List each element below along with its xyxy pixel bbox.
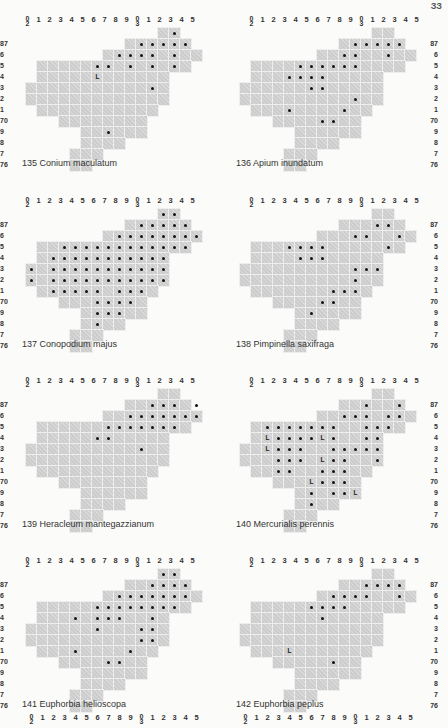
occurrence-dot <box>169 400 180 411</box>
column-label: 02 <box>22 197 33 207</box>
occurrence-dot <box>158 580 169 591</box>
occurrence-dot <box>125 50 136 61</box>
grid-cell <box>251 624 262 635</box>
column-label: 3 <box>59 714 70 721</box>
grid-cell <box>317 499 328 510</box>
dot-icon <box>107 257 110 260</box>
dot-icon <box>140 268 143 271</box>
dot-icon <box>195 415 198 418</box>
grid-cell <box>295 83 306 94</box>
occurrence-dot <box>383 242 394 253</box>
grid-cell <box>339 624 350 635</box>
occurrence-dot <box>372 39 383 50</box>
literature-marker: L <box>354 490 358 497</box>
occurrence-dot <box>125 646 136 657</box>
grid-cell <box>273 624 284 635</box>
column-label: 7 <box>323 557 334 564</box>
dot-icon <box>151 584 154 587</box>
dot-icon <box>332 459 335 462</box>
dot-icon <box>310 503 313 506</box>
occurrence-dot <box>158 264 169 275</box>
grid-cell <box>48 646 59 657</box>
grid-cell <box>350 297 361 308</box>
occurrence-dot <box>114 242 125 253</box>
occurrence-dot <box>136 444 147 455</box>
grid-cell <box>350 668 361 679</box>
distribution-map-138: 021234567890312345876543217098776138 Pim… <box>224 181 448 361</box>
grid-cell <box>103 116 114 127</box>
grid-cell <box>147 72 158 83</box>
occurrence-dot <box>191 400 202 411</box>
occurrence-dot <box>92 61 103 72</box>
dot-icon <box>321 426 324 429</box>
column-label: 1 <box>257 377 268 384</box>
grid-cell <box>92 657 103 668</box>
grid-cell <box>59 297 70 308</box>
occurrence-dot <box>339 61 350 72</box>
dot-icon <box>96 628 99 631</box>
species-number: 137 <box>22 339 37 349</box>
column-label: 9 <box>339 714 350 721</box>
dot-icon <box>376 268 379 271</box>
grid-cell <box>59 105 70 116</box>
occurrence-dot <box>103 602 114 613</box>
dot-icon <box>140 224 143 227</box>
occurrence-dot <box>169 422 180 433</box>
occurrence-dot <box>372 580 383 591</box>
dot-icon <box>52 257 55 260</box>
grid-cell <box>262 105 273 116</box>
occurrence-dot <box>92 253 103 264</box>
grid-cell <box>125 444 136 455</box>
column-label: 3 <box>55 557 66 564</box>
grid-cell <box>103 646 114 657</box>
grid-cell <box>26 635 37 646</box>
occurrence-dot <box>328 591 339 602</box>
dot-icon <box>387 415 390 418</box>
species-number: 139 <box>22 519 37 529</box>
grid-cell <box>328 138 339 149</box>
row-label: 7 <box>0 691 14 698</box>
dot-icon <box>343 415 346 418</box>
grid-cell <box>339 433 350 444</box>
column-label: 3 <box>389 377 400 384</box>
dot-icon <box>343 54 346 57</box>
literature-record: L <box>284 646 295 657</box>
column-label: 3 <box>389 16 400 23</box>
grid-cell <box>147 433 158 444</box>
grid-cell <box>37 635 48 646</box>
occurrence-dot <box>262 422 273 433</box>
occurrence-dot <box>273 433 284 444</box>
column-label: 03 <box>132 16 143 26</box>
occurrence-dot <box>158 400 169 411</box>
grid-cell <box>383 209 394 220</box>
grid-cell <box>136 477 147 488</box>
grid-cell <box>339 94 350 105</box>
grid-cell <box>147 466 158 477</box>
grid-cell <box>240 264 251 275</box>
grid-cell <box>136 308 147 319</box>
grid-cell <box>262 455 273 466</box>
occurrence-dot <box>361 591 372 602</box>
grid-cell <box>394 602 405 613</box>
grid-cell <box>383 591 394 602</box>
grid-cell <box>92 138 103 149</box>
grid-cell <box>372 50 383 61</box>
occurrence-dot <box>114 231 125 242</box>
occurrence-dot <box>114 602 125 613</box>
dot-icon <box>151 43 154 46</box>
grid-cell <box>284 61 295 72</box>
column-label: 8 <box>110 197 121 204</box>
row-label: 2 <box>424 456 438 463</box>
row-label: 3 <box>424 625 438 632</box>
column-label: 3 <box>279 557 290 564</box>
column-label: 03 <box>132 377 143 387</box>
occurrence-dot <box>339 444 350 455</box>
grid-cell <box>125 488 136 499</box>
occurrence-dot <box>284 422 295 433</box>
column-label: 5 <box>81 714 92 721</box>
grid-cell <box>136 72 147 83</box>
occurrence-dot <box>383 39 394 50</box>
occurrence-dot <box>361 400 372 411</box>
column-label: 3 <box>165 377 176 384</box>
column-label: 9 <box>345 16 356 23</box>
